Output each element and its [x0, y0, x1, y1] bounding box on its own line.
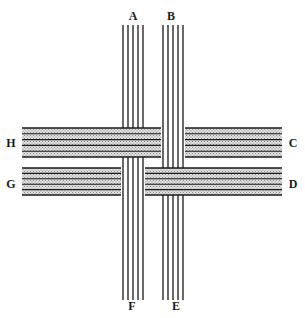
- label-e: E: [172, 300, 180, 312]
- label-c: C: [289, 137, 298, 149]
- label-f: F: [128, 300, 135, 312]
- label-b: B: [167, 10, 175, 22]
- label-g: G: [6, 178, 15, 190]
- label-d: D: [289, 178, 298, 190]
- under-layer: [123, 25, 183, 300]
- weave-diagram: [0, 0, 305, 318]
- band-layer: [22, 128, 282, 195]
- label-h: H: [6, 137, 15, 149]
- label-a: A: [129, 10, 138, 22]
